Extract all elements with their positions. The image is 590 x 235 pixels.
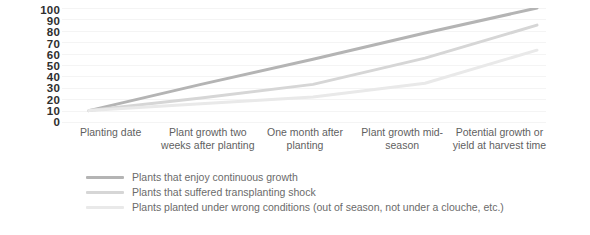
- gridline: [62, 122, 546, 123]
- y-tick-label: 70: [14, 39, 60, 49]
- y-tick-label: 10: [14, 106, 60, 116]
- x-category-label: One month after planting: [256, 126, 353, 160]
- y-tick-label: 40: [14, 72, 60, 82]
- y-tick-label: 50: [14, 61, 60, 71]
- legend-item[interactable]: Plants that enjoy continuous growth: [86, 170, 556, 184]
- legend-label: Plants that suffered transplanting shock: [132, 185, 316, 199]
- y-tick-label: 20: [14, 95, 60, 105]
- legend-item[interactable]: Plants planted under wrong conditions (o…: [86, 200, 556, 214]
- x-category-label: Planting date: [62, 126, 159, 160]
- plot-area: 1009080706050403020100: [0, 0, 590, 132]
- y-tick-label: 80: [14, 27, 60, 37]
- x-category-label: Plant growth mid-season: [354, 126, 451, 160]
- chart-legend: Plants that enjoy continuous growthPlant…: [86, 170, 556, 215]
- series-line-1: [89, 8, 537, 111]
- x-category-label: Plant growth two weeks after planting: [159, 126, 256, 160]
- y-tick-label: 60: [14, 50, 60, 60]
- legend-label: Plants that enjoy continuous growth: [132, 170, 298, 184]
- x-category-label: Potential growth or yield at harvest tim…: [451, 126, 548, 160]
- series-lines: [62, 8, 546, 122]
- legend-swatch-icon: [86, 206, 124, 209]
- line-chart: 1009080706050403020100 Planting datePlan…: [0, 0, 590, 235]
- legend-item[interactable]: Plants that suffered transplanting shock: [86, 185, 556, 199]
- y-tick-label: 0: [14, 117, 60, 127]
- x-axis: Planting datePlant growth two weeks afte…: [62, 126, 548, 160]
- legend-label: Plants planted under wrong conditions (o…: [132, 200, 504, 214]
- y-axis: 1009080706050403020100: [14, 10, 60, 122]
- y-tick-label: 30: [14, 83, 60, 93]
- legend-swatch-icon: [86, 191, 124, 194]
- y-tick-label: 100: [14, 5, 60, 15]
- legend-swatch-icon: [86, 176, 124, 179]
- y-tick-label: 90: [14, 16, 60, 26]
